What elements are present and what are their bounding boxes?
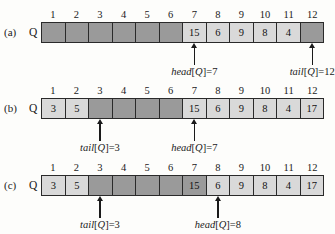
queue-cell[interactable] (301, 23, 324, 42)
queue-cell[interactable]: 8 (254, 23, 278, 42)
queue-cell[interactable]: 15 (183, 176, 207, 195)
pointer-value: 8 (236, 219, 241, 230)
array-name-label: Q (29, 179, 37, 191)
pointer-var: Q (219, 219, 227, 230)
pointer-label-tail: tail[Q]=3 (80, 142, 120, 154)
column-index: 2 (65, 161, 89, 174)
column-index: 1 (41, 84, 65, 97)
column-index: 6 (159, 8, 183, 21)
column-index: 11 (277, 84, 301, 97)
queue-cell[interactable] (136, 176, 160, 195)
column-index: 8 (206, 8, 230, 21)
queue-cell[interactable] (89, 99, 113, 118)
queue-cell[interactable] (66, 23, 90, 42)
pointer-name: tail (80, 219, 94, 230)
queue-cell[interactable] (136, 99, 160, 118)
panel-letter: (b) (4, 103, 17, 114)
queue-cell[interactable] (89, 176, 113, 195)
pointer-label-tail: tail[Q]=3 (80, 219, 120, 231)
queue-cell[interactable]: 3 (42, 176, 66, 195)
column-index: 5 (135, 161, 159, 174)
panel-letter: (c) (4, 180, 16, 191)
column-index: 6 (159, 84, 183, 97)
panel-letter: (a) (4, 27, 16, 38)
pointer-label-head: head[Q]=7 (171, 66, 217, 78)
queue-cell[interactable]: 9 (230, 99, 254, 118)
pointer-value: 3 (115, 142, 120, 153)
queue-cell[interactable] (160, 23, 184, 42)
column-index: 11 (277, 8, 301, 21)
pointer-name: head (171, 66, 191, 77)
column-index: 8 (206, 84, 230, 97)
queue-cell[interactable]: 8 (254, 176, 278, 195)
pointer-arrow-head (183, 119, 207, 141)
pointer-label-tail: tail[Q]=12 (290, 66, 335, 78)
queue-cell[interactable]: 4 (277, 99, 301, 118)
column-index: 3 (88, 84, 112, 97)
arrow-head-icon (191, 119, 197, 124)
pointer-value: 7 (212, 66, 217, 77)
column-index: 1 (41, 161, 65, 174)
queue-cell[interactable]: 6 (207, 23, 231, 42)
pointer-value: 12 (324, 66, 335, 77)
queue-cell[interactable]: 17 (301, 99, 324, 118)
column-index: 5 (135, 8, 159, 21)
column-index: 10 (253, 161, 277, 174)
queue-cell[interactable]: 15 (183, 99, 207, 118)
column-index: 2 (65, 84, 89, 97)
queue-cell[interactable] (89, 23, 113, 42)
queue-cell[interactable] (113, 23, 137, 42)
queue-cell[interactable]: 15 (183, 23, 207, 42)
arrow-shaft (99, 199, 100, 218)
pointer-arrow-tail (88, 119, 112, 141)
column-index: 5 (135, 84, 159, 97)
arrow-shaft (99, 122, 100, 141)
pointer-arrow-head (183, 43, 207, 65)
queue-cell[interactable]: 4 (277, 23, 301, 42)
queue-cell[interactable]: 9 (230, 176, 254, 195)
pointer-value: 3 (115, 219, 120, 230)
column-index: 2 (65, 8, 89, 21)
arrow-head-icon (97, 196, 103, 201)
column-index: 7 (183, 8, 207, 21)
pointer-var: Q (195, 142, 203, 153)
column-index: 10 (253, 8, 277, 21)
queue-cell[interactable]: 5 (66, 176, 90, 195)
column-index: 9 (230, 84, 254, 97)
queue-cell[interactable] (136, 23, 160, 42)
pointer-name: tail (290, 66, 304, 77)
arrow-shaft (217, 199, 218, 218)
pointer-label-head: head[Q]=7 (171, 142, 217, 154)
queue-cell[interactable]: 4 (277, 176, 301, 195)
pointer-var: Q (98, 219, 106, 230)
queue-cell[interactable] (113, 176, 137, 195)
queue-array: 156984 (41, 22, 324, 43)
pointer-value: 7 (212, 142, 217, 153)
queue-array: 3515698417 (41, 98, 324, 119)
queue-cell[interactable]: 17 (301, 176, 324, 195)
queue-cell[interactable]: 8 (254, 99, 278, 118)
queue-cell[interactable]: 6 (207, 176, 231, 195)
column-index: 9 (230, 8, 254, 21)
queue-cell[interactable]: 3 (42, 99, 66, 118)
queue-cell[interactable] (42, 23, 66, 42)
column-index-strip: 123456789101112 (41, 84, 324, 98)
queue-cell[interactable]: 6 (207, 99, 231, 118)
pointer-var: Q (195, 66, 203, 77)
column-index: 1 (41, 8, 65, 21)
queue-cell[interactable]: 5 (66, 99, 90, 118)
pointer-name: tail (80, 142, 94, 153)
queue-cell[interactable] (160, 99, 184, 118)
queue-cell[interactable] (113, 99, 137, 118)
queue-cell[interactable]: 9 (230, 23, 254, 42)
queue-cell[interactable] (160, 176, 184, 195)
column-index: 10 (253, 84, 277, 97)
arrow-head-icon (97, 119, 103, 124)
column-index: 4 (112, 161, 136, 174)
column-index: 3 (88, 161, 112, 174)
pointer-arrow-head (206, 196, 230, 218)
arrow-head-icon (191, 43, 197, 48)
array-name-label: Q (29, 26, 37, 38)
arrow-shaft (194, 46, 195, 65)
column-index: 3 (88, 8, 112, 21)
